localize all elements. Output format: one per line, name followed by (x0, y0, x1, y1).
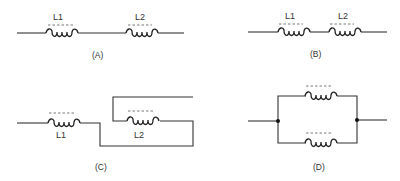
caption-c: (C) (95, 162, 107, 172)
panel-a: L1 L2 (A) (17, 12, 184, 60)
label-l1: L1 (53, 12, 63, 22)
label-l2: L2 (134, 130, 144, 140)
caption-a: (A) (92, 50, 104, 60)
label-l1: L1 (56, 130, 66, 140)
panel-d: (D) (248, 86, 387, 172)
label-l2: L2 (135, 12, 145, 22)
label-l2: L2 (338, 11, 348, 21)
caption-d: (D) (313, 162, 325, 172)
panel-b: L1 L2 (B) (248, 11, 387, 59)
inductor-diagram: L1 L2 (A) L1 L2 (B) L1 L2 (C) (0, 0, 400, 181)
panel-c: L1 L2 (C) (17, 97, 193, 172)
label-l1: L1 (285, 11, 295, 21)
caption-b: (B) (310, 49, 322, 59)
